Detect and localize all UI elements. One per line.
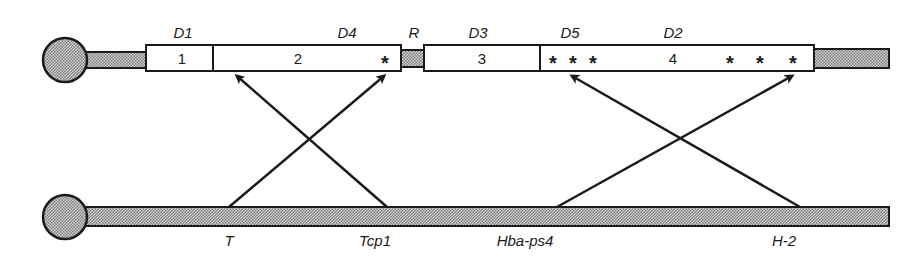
locus-hba-ps4: Hba-ps4 [497, 232, 554, 249]
segment-2-label: 2 [294, 50, 302, 67]
asterisk-marker: * [569, 52, 577, 74]
bottom-centromere [43, 195, 87, 239]
chromosome-diagram: 1 2 3 4 * * * * * * * D1 D4 R D3 D5 D2 T… [0, 0, 924, 269]
top-centromere [43, 38, 87, 82]
asterisk-marker: * [789, 52, 797, 74]
asterisk-marker: * [756, 52, 764, 74]
homology-arrows [229, 76, 800, 207]
label-d2: D2 [663, 24, 683, 41]
asterisk-marker: * [381, 52, 389, 74]
label-d3: D3 [468, 24, 488, 41]
locus-h2: H-2 [772, 232, 797, 249]
label-d4: D4 [337, 24, 356, 41]
label-r: R [409, 24, 420, 41]
segment-4-label: 4 [669, 50, 677, 67]
bottom-chromosome: T Tcp1 Hba-ps4 H-2 [43, 195, 889, 249]
asterisk-marker: * [549, 52, 557, 74]
arrow-hba-ps4-to-d2 [557, 76, 792, 207]
locus-t: T [224, 232, 235, 249]
segment-1-label: 1 [178, 50, 186, 67]
asterisk-marker: * [726, 52, 734, 74]
top-chromosome: 1 2 3 4 * * * * * * * D1 D4 R D3 D5 D2 [43, 24, 889, 82]
label-d5: D5 [560, 24, 580, 41]
top-right-arm [814, 49, 889, 68]
segment-3-label: 3 [478, 50, 486, 67]
locus-tcp1: Tcp1 [359, 232, 391, 249]
arrow-tcp1-to-segment2 [237, 76, 387, 207]
asterisk-marker: * [589, 52, 597, 74]
label-d1: D1 [173, 24, 192, 41]
top-left-arm [84, 52, 146, 68]
arrow-t-to-d4 [229, 76, 384, 207]
bottom-arm [84, 207, 889, 226]
arrow-h2-to-d5 [572, 76, 800, 207]
top-r-linker [401, 50, 424, 67]
